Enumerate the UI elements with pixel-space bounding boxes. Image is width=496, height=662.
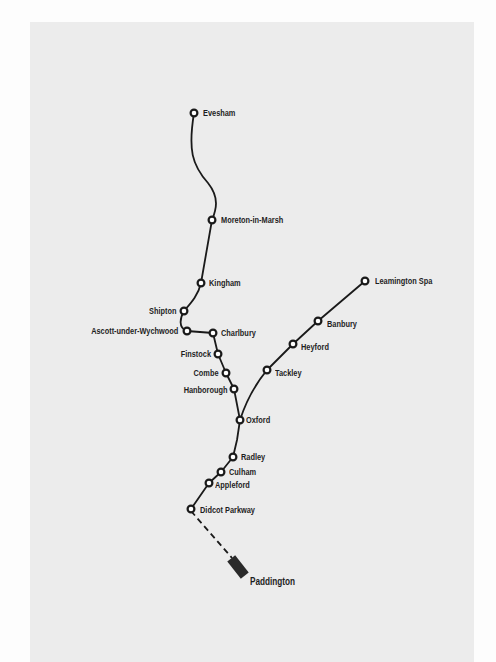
station-label-banbury[interactable]: Banbury — [327, 319, 357, 329]
station-label-charlbury[interactable]: Charlbury — [221, 328, 256, 338]
station-marker-ascott[interactable] — [184, 328, 191, 335]
station-label-paddington[interactable]: Paddington — [250, 577, 295, 587]
station-label-radley[interactable]: Radley — [241, 452, 265, 462]
station-label-kingham[interactable]: Kingham — [209, 278, 241, 288]
station-marker-oxford[interactable] — [237, 417, 244, 424]
station-marker-evesham[interactable] — [191, 110, 198, 117]
station-label-culham[interactable]: Culham — [229, 467, 256, 477]
station-marker-moreton[interactable] — [209, 217, 216, 224]
station-marker-charlbury[interactable] — [210, 330, 217, 337]
station-label-shipton[interactable]: Shipton — [149, 306, 176, 316]
station-label-leamington[interactable]: Leamington Spa — [375, 276, 432, 286]
station-marker-culham[interactable] — [218, 469, 225, 476]
station-marker-shipton[interactable] — [181, 308, 188, 315]
station-marker-finstock[interactable] — [215, 351, 222, 358]
station-label-finstock[interactable]: Finstock — [181, 349, 211, 359]
station-marker-banbury[interactable] — [315, 318, 322, 325]
station-marker-appleford[interactable] — [206, 480, 213, 487]
station-label-ascott[interactable]: Ascott-under-Wychwood — [91, 326, 178, 336]
station-label-oxford[interactable]: Oxford — [246, 415, 270, 425]
station-marker-tackley[interactable] — [264, 367, 271, 374]
station-label-moreton[interactable]: Moreton-in-Marsh — [221, 215, 283, 225]
station-label-heyford[interactable]: Heyford — [301, 342, 329, 352]
station-marker-leamington[interactable] — [362, 278, 369, 285]
paddington-dashed-line — [191, 511, 232, 558]
station-marker-radley[interactable] — [230, 454, 237, 461]
station-marker-kingham[interactable] — [198, 280, 205, 287]
station-marker-heyford[interactable] — [290, 341, 297, 348]
station-label-tackley[interactable]: Tackley — [275, 368, 302, 378]
station-marker-didcot[interactable] — [188, 506, 195, 513]
station-marker-combe[interactable] — [223, 370, 230, 377]
station-label-hanborough[interactable]: Hanborough — [183, 385, 227, 395]
paddington-terminus-icon[interactable] — [227, 555, 248, 578]
station-label-evesham[interactable]: Evesham — [203, 108, 235, 118]
station-label-didcot[interactable]: Didcot Parkway — [200, 505, 255, 515]
oxford-didcot-line — [191, 420, 240, 509]
station-marker-hanborough[interactable] — [231, 386, 238, 393]
station-label-appleford[interactable]: Appleford — [215, 480, 250, 490]
station-label-combe[interactable]: Combe — [194, 368, 219, 378]
